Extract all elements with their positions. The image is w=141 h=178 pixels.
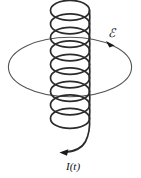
solenoid-figure: ℰ I(t) xyxy=(0,0,141,178)
coil-turn xyxy=(51,108,90,128)
current-lead-arrow-icon xyxy=(59,149,68,156)
loop-direction-arrow-icon xyxy=(106,41,115,48)
emf-label: ℰ xyxy=(108,27,115,39)
diagram-canvas xyxy=(0,0,141,178)
current-label: I(t) xyxy=(66,161,80,172)
solenoid-helix xyxy=(51,0,90,155)
